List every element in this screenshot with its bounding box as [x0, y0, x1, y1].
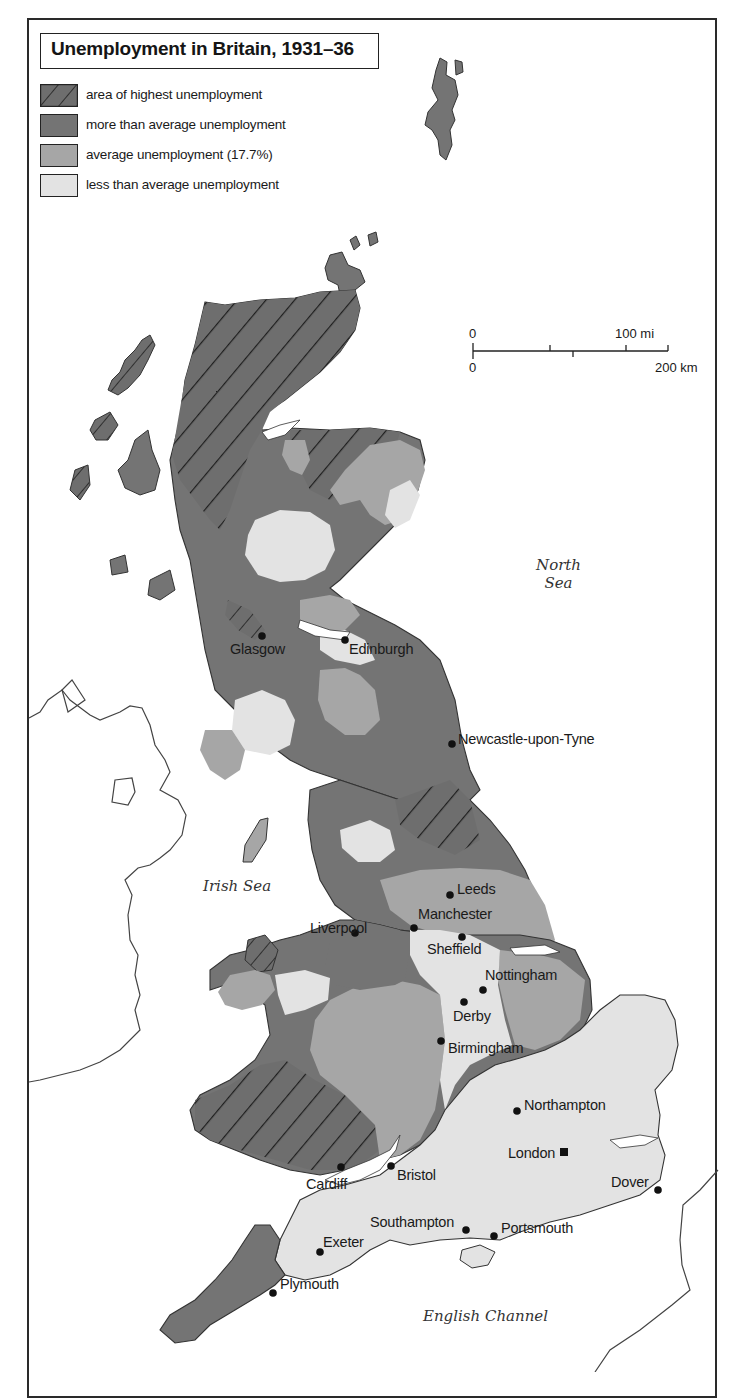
isle-of-wight [460, 1245, 495, 1268]
map-title: Unemployment in Britain, 1931–36 [51, 38, 354, 60]
city-label-glasgow: Glasgow [230, 641, 285, 657]
marker-birmingham [437, 1037, 445, 1045]
central-highlands-below [245, 510, 335, 582]
english-channel-label: English Channel [423, 1307, 548, 1325]
scale-miles-end: 100 mi [615, 326, 654, 341]
marker-bristol [387, 1162, 395, 1170]
marker-plymouth [269, 1289, 277, 1297]
light-gray-swatch-icon [40, 174, 78, 197]
city-label-liverpool: Liverpool [310, 920, 367, 936]
legend-label: less than average unemployment [86, 177, 279, 192]
city-label-plymouth: Plymouth [280, 1276, 339, 1292]
irish-sea-label: Irish Sea [203, 877, 271, 895]
medium-gray-swatch-icon [40, 144, 78, 167]
map-title-box: Unemployment in Britain, 1931–36 [40, 33, 379, 69]
marker-glasgow [258, 632, 266, 640]
city-label-bristol: Bristol [397, 1167, 436, 1183]
marker-cardiff [337, 1163, 345, 1171]
marker-newcastle [448, 740, 456, 748]
city-label-exeter: Exeter [323, 1234, 364, 1250]
marker-dover [654, 1186, 662, 1194]
scale-miles-start: 0 [469, 326, 476, 341]
legend-label: area of highest unemployment [86, 87, 262, 102]
ireland-outline [29, 680, 186, 1082]
marker-portsmouth [490, 1232, 498, 1240]
legend-label: more than average unemployment [86, 117, 286, 132]
isle-of-man [243, 818, 268, 862]
city-label-portsmouth: Portsmouth [501, 1220, 573, 1236]
city-label-birmingham: Birmingham [448, 1040, 523, 1056]
city-label-derby: Derby [453, 1008, 491, 1024]
shetland [425, 58, 463, 160]
city-label-manchester: Manchester [418, 906, 492, 922]
marker-derby [460, 998, 468, 1006]
city-label-leeds: Leeds [457, 881, 496, 897]
city-label-nottingham: Nottingham [485, 967, 557, 983]
city-label-southampton: Southampton [370, 1214, 454, 1230]
city-label-newcastle: Newcastle-upon-Tyne [458, 731, 594, 747]
north-sea-label: North Sea [536, 556, 581, 592]
scale-bar [473, 343, 668, 359]
north-sea-line1: North [536, 556, 581, 574]
marker-southampton [462, 1226, 470, 1234]
marker-edinburgh [341, 636, 349, 644]
marker-london [560, 1148, 568, 1156]
city-label-dover: Dover [611, 1174, 649, 1190]
city-label-sheffield: Sheffield [427, 941, 481, 957]
hatched-swatch-icon [40, 84, 78, 107]
city-label-cardiff: Cardiff [306, 1176, 347, 1192]
marker-northampton [513, 1107, 521, 1115]
marker-nottingham [479, 986, 487, 994]
city-label-edinburgh: Edinburgh [349, 641, 413, 657]
marker-manchester [410, 924, 418, 932]
marker-sheffield [458, 933, 466, 941]
scale-km-start: 0 [469, 360, 476, 375]
dark-gray-swatch-icon [40, 114, 78, 137]
legend-label: average unemployment (17.7%) [86, 147, 273, 162]
skye [110, 430, 175, 600]
city-label-london: London [508, 1145, 555, 1161]
scale-km-end: 200 km [655, 360, 698, 375]
north-sea-line2: Sea [536, 574, 581, 592]
marker-leeds [446, 891, 454, 899]
cornwall-above [160, 1225, 285, 1343]
city-label-northampton: Northampton [524, 1097, 606, 1113]
